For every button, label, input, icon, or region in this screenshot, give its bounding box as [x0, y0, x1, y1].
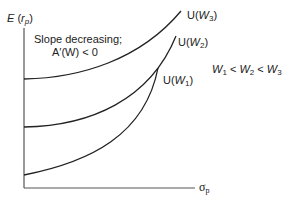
label-var: W: [190, 36, 200, 48]
label-prefix: U(: [163, 74, 175, 86]
lt1: <: [227, 63, 240, 75]
y-axis-label: E (rp): [7, 12, 33, 24]
curve-label-w3: U(W3): [187, 9, 217, 21]
lt2: <: [254, 63, 267, 75]
curve-label-w1: U(W1): [163, 74, 193, 86]
x-axis-label: σp: [199, 181, 209, 193]
label-suffix: ): [204, 36, 208, 48]
x-axis-sub: p: [205, 186, 209, 195]
w3-sub: 3: [277, 68, 281, 77]
annotation-line2: A′(W) < 0: [52, 46, 98, 58]
annotation-line1: Slope decreasing;: [34, 33, 122, 45]
wealth-inequality: W1 < W2 < W3: [212, 63, 282, 75]
label-var: W: [175, 74, 185, 86]
y-axis-paren-close: ): [29, 12, 33, 24]
curve-u-w2: [24, 36, 176, 127]
label-suffix: ): [189, 74, 193, 86]
w2: W: [239, 63, 249, 75]
label-suffix: ): [213, 9, 217, 21]
w3: W: [267, 63, 277, 75]
label-prefix: U(: [187, 9, 199, 21]
label-prefix: U(: [178, 36, 190, 48]
indifference-curve-diagram: [0, 0, 290, 205]
curve-label-w2: U(W2): [178, 36, 208, 48]
curve-u-w1: [24, 68, 158, 175]
label-var: W: [199, 9, 209, 21]
w1: W: [212, 63, 222, 75]
